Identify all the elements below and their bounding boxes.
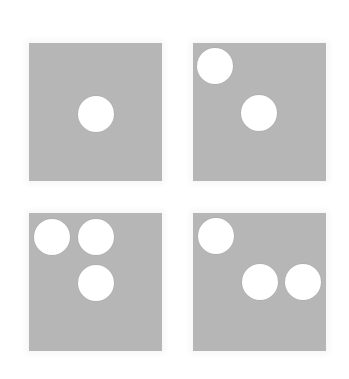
circle-icon [241,95,277,131]
figure-canvas [0,0,349,379]
panel-top-right [193,43,326,181]
circle-icon [78,96,114,132]
circle-icon [198,218,234,254]
circle-icon [242,264,278,300]
panel-bottom-left [29,213,162,351]
circle-icon [285,264,321,300]
circle-icon [78,219,114,255]
panel-bottom-right [193,213,326,351]
circle-icon [78,265,114,301]
panel-top-left [29,43,162,181]
circle-icon [197,48,233,84]
circle-icon [34,219,70,255]
